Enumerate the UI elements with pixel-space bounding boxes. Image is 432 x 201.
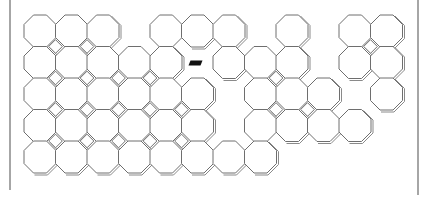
octagon-tile[interactable]: [56, 78, 88, 110]
octagon-tile-board: [0, 0, 432, 201]
octagon-tile[interactable]: [150, 47, 184, 81]
octagon-tile[interactable]: [56, 141, 90, 175]
octagon-tile[interactable]: [87, 110, 119, 142]
octagon-tile[interactable]: [245, 47, 277, 79]
octagon-tile[interactable]: [276, 47, 310, 81]
octagon-tiles: [24, 15, 405, 175]
octagon-tile[interactable]: [245, 110, 277, 142]
octagon-tile[interactable]: [24, 141, 58, 175]
octagon-tile[interactable]: [276, 15, 310, 49]
octagon-tile[interactable]: [182, 15, 216, 49]
octagon-tile[interactable]: [339, 47, 373, 81]
octagon-tile[interactable]: [119, 78, 151, 110]
octagon-tile[interactable]: [339, 110, 373, 144]
octagon-tile[interactable]: [150, 15, 182, 47]
octagon-tile[interactable]: [24, 15, 56, 47]
octagon-tile[interactable]: [150, 141, 184, 175]
board-canvas: [0, 0, 432, 201]
octagon-tile[interactable]: [87, 141, 121, 175]
octagon-tile[interactable]: [371, 15, 405, 49]
octagon-tile[interactable]: [182, 141, 216, 175]
octagon-tile[interactable]: [213, 141, 247, 175]
octagon-tile[interactable]: [276, 78, 308, 110]
octagon-tile[interactable]: [56, 47, 88, 79]
octagon-tile[interactable]: [371, 78, 405, 112]
octagon-tile[interactable]: [213, 47, 247, 81]
octagon-tile[interactable]: [119, 47, 151, 79]
octagon-tile[interactable]: [245, 141, 279, 175]
octagon-tile[interactable]: [87, 15, 121, 49]
cursor-marker-icon: [189, 61, 203, 66]
octagon-tile[interactable]: [308, 78, 342, 112]
octagon-tile[interactable]: [56, 110, 88, 142]
octagon-tile[interactable]: [24, 47, 56, 79]
octagon-tile[interactable]: [150, 78, 182, 110]
octagon-tile[interactable]: [371, 47, 405, 81]
octagon-tile[interactable]: [119, 110, 151, 142]
octagon-tile[interactable]: [308, 110, 342, 144]
octagon-tile[interactable]: [339, 15, 371, 47]
octagon-tile[interactable]: [119, 141, 153, 175]
octagon-tile[interactable]: [24, 78, 56, 110]
octagon-tile[interactable]: [245, 78, 277, 110]
octagon-tile[interactable]: [87, 47, 119, 79]
octagon-tile[interactable]: [24, 110, 56, 142]
octagon-tile[interactable]: [276, 110, 310, 144]
octagon-tile[interactable]: [182, 78, 216, 112]
octagon-tile[interactable]: [87, 78, 119, 110]
octagon-tile[interactable]: [213, 15, 247, 49]
octagon-tile[interactable]: [182, 110, 216, 144]
octagon-tile[interactable]: [56, 15, 88, 47]
octagon-tile[interactable]: [150, 110, 182, 142]
